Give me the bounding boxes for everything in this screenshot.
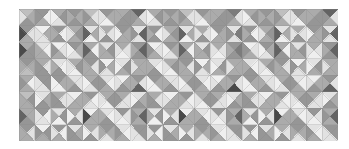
- quilt-svg: [19, 9, 338, 141]
- quilt-grid-lines: [19, 9, 338, 141]
- quilt-pattern: [19, 9, 338, 141]
- image-canvas: [0, 0, 349, 149]
